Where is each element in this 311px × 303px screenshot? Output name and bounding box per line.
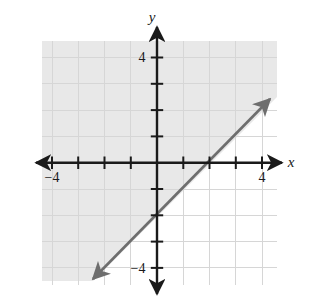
x-axis-label: x	[287, 154, 295, 170]
x-tick-label-four: 4	[259, 170, 266, 185]
y-tick-label-neg-four: −4	[131, 261, 146, 276]
graph-canvas: x y −4 4 4 −4	[0, 0, 311, 303]
y-axis-label: y	[147, 9, 156, 25]
x-tick-label-neg-four: −4	[45, 170, 60, 185]
coordinate-plane-graph: x y −4 4 4 −4	[0, 0, 311, 303]
y-tick-label-four: 4	[139, 50, 146, 65]
